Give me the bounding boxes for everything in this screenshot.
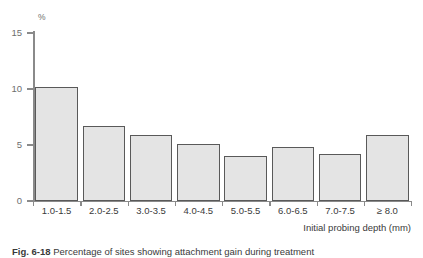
x-tick-mark <box>80 201 81 206</box>
x-tick-mark <box>33 201 34 206</box>
figure-caption-text: Percentage of sites showing attachment g… <box>53 246 314 257</box>
bar <box>224 156 267 201</box>
y-tick-mark <box>27 88 34 89</box>
x-category-label: ≥ 8.0 <box>364 206 411 216</box>
figure-caption: Fig. 6-18 Percentage of sites showing at… <box>12 246 412 258</box>
y-tick-mark <box>27 144 34 145</box>
figure-caption-number: Fig. 6-18 <box>12 246 51 257</box>
x-tick-mark <box>222 201 223 206</box>
bar <box>177 144 220 201</box>
x-axis-title: Initial probing depth (mm) <box>303 222 411 233</box>
y-tick-mark <box>27 32 34 33</box>
x-category-label: 6.0-6.5 <box>269 206 316 216</box>
x-category-label: 3.0-3.5 <box>128 206 175 216</box>
x-category-label: 7.0-7.5 <box>317 206 364 216</box>
bar <box>319 154 362 201</box>
x-category-label: 4.0-4.5 <box>175 206 222 216</box>
y-axis-line <box>33 31 35 202</box>
y-tick-label: 0 <box>0 196 22 206</box>
x-tick-mark <box>128 201 129 206</box>
x-tick-mark <box>269 201 270 206</box>
y-tick-label: 10 <box>0 84 22 94</box>
x-tick-mark <box>317 201 318 206</box>
bar <box>83 126 126 201</box>
x-category-label: 5.0-5.5 <box>222 206 269 216</box>
bar <box>272 147 315 201</box>
x-category-label: 1.0-1.5 <box>33 206 80 216</box>
x-tick-mark <box>364 201 365 206</box>
y-tick-label: 5 <box>0 140 22 150</box>
bar <box>366 135 409 201</box>
y-axis-unit-label: % <box>38 12 46 22</box>
x-tick-mark <box>411 201 412 206</box>
x-category-label: 2.0-2.5 <box>80 206 127 216</box>
bar <box>130 135 173 201</box>
x-tick-mark <box>175 201 176 206</box>
y-tick-label: 15 <box>0 28 22 38</box>
bar <box>35 87 78 201</box>
